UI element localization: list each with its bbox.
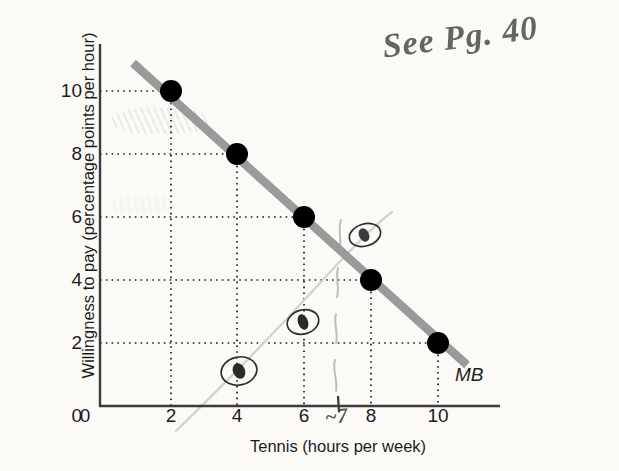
y-tick-10: 10 xyxy=(52,80,82,102)
pencil-dot-1 xyxy=(230,361,248,381)
data-point-10-2 xyxy=(427,332,449,354)
x-tick-6: 6 xyxy=(287,405,321,427)
y-tick-6: 6 xyxy=(52,206,82,228)
data-point-8-4 xyxy=(360,269,382,291)
mb-series-label: MB xyxy=(455,364,484,386)
x-tick-10: 10 xyxy=(421,405,455,427)
data-point-4-8 xyxy=(226,143,248,165)
x-tick-2: 2 xyxy=(154,405,188,427)
handwritten-approx-seven: ~7 xyxy=(324,403,349,430)
y-axis-label: Willingness to pay (percentage points pe… xyxy=(79,16,98,396)
data-point-6-6 xyxy=(293,206,315,228)
x-tick-8: 8 xyxy=(354,405,388,427)
x-tick-4: 4 xyxy=(220,405,254,427)
gridlines xyxy=(100,91,438,406)
y-tick-4: 4 xyxy=(52,269,82,291)
y-tick-8: 8 xyxy=(52,143,82,165)
pencil-dot-2 xyxy=(296,313,311,331)
x-tick-0: 0 xyxy=(68,405,102,427)
x-axis-label: Tennis (hours per week) xyxy=(250,437,426,456)
data-point-2-10 xyxy=(160,80,182,102)
chart-figure: 10 8 6 4 2 0 0 2 4 6 8 10 Willingness to… xyxy=(0,0,619,471)
y-tick-2: 2 xyxy=(52,332,82,354)
pencil-annotation-line xyxy=(176,212,392,431)
